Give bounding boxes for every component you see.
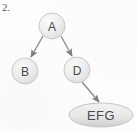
figure-canvas: 2. A (0, 0, 137, 132)
node-d-label: D (73, 64, 82, 78)
node-efg-label: EFG (87, 108, 115, 123)
tree-diagram: A B D EFG (0, 0, 137, 132)
node-b[interactable]: B (12, 58, 38, 84)
node-d[interactable]: D (64, 57, 90, 83)
node-a-label: A (48, 20, 56, 34)
node-a[interactable]: A (39, 13, 65, 39)
edge-d-to-efg (82, 82, 99, 102)
node-efg[interactable]: EFG (69, 103, 133, 127)
edge-a-to-d (61, 36, 72, 56)
edge-a-to-b (31, 36, 43, 57)
node-b-label: B (21, 65, 29, 79)
